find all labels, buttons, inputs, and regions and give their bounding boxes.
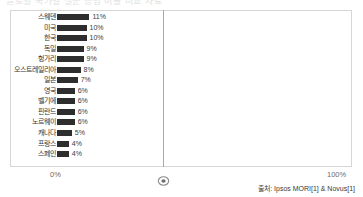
bar-row-label: 스페인 <box>38 149 56 160</box>
bar-track <box>57 67 352 73</box>
bar <box>57 67 81 73</box>
bar-value-label: 6% <box>78 86 88 97</box>
bar <box>57 14 89 20</box>
axis-tick-0: 0% <box>50 170 61 179</box>
bar-value-label: 9% <box>87 44 97 55</box>
bar-track <box>57 109 352 115</box>
bar-track <box>57 88 352 94</box>
bar <box>57 56 84 62</box>
bar-track <box>57 56 352 62</box>
bar-row-label: 오스트레일리아 <box>14 65 56 76</box>
bar-row-label: 노르웨이 <box>32 117 56 128</box>
bar-track <box>57 98 352 104</box>
bar-track <box>57 119 352 125</box>
chart-root: 글로벌 국가별 설문 응답 비율 비교 자료 스웨덴11%미국10%한국10%독… <box>0 0 363 197</box>
bar-row: 일본7% <box>10 75 352 86</box>
bar-row: 프랑스4% <box>10 139 352 150</box>
bar <box>57 25 87 31</box>
bar-value-label: 4% <box>72 149 82 160</box>
bar-track <box>57 130 352 136</box>
bar <box>57 151 69 157</box>
axis-tick-100: 100% <box>327 170 346 179</box>
bar-row-label: 헝가리 <box>38 54 56 65</box>
bar-track <box>57 77 352 83</box>
bar <box>57 77 78 83</box>
bar-track <box>57 46 352 52</box>
bar <box>57 109 75 115</box>
bar-row-label: 영국 <box>44 86 56 97</box>
bar-rows: 스웨덴11%미국10%한국10%독일9%헝가리9%오스트레일리아8%일본7%영국… <box>10 12 352 165</box>
bar <box>57 46 84 52</box>
bar-row-label: 스웨덴 <box>38 12 56 23</box>
bar-row: 한국10% <box>10 33 352 44</box>
bar-row-label: 일본 <box>44 75 56 86</box>
bar-value-label: 8% <box>84 65 94 76</box>
circle-marker-icon <box>157 172 170 182</box>
bar-value-label: 9% <box>87 54 97 65</box>
bar-row: 벨기에6% <box>10 96 352 107</box>
bar-value-label: 7% <box>81 75 91 86</box>
bar-track <box>57 141 352 147</box>
bar-value-label: 5% <box>75 128 85 139</box>
bar <box>57 141 69 147</box>
bar-value-label: 10% <box>90 33 104 44</box>
bar <box>57 98 75 104</box>
bar-row: 핀란드6% <box>10 107 352 118</box>
bar-row: 스웨덴11% <box>10 12 352 23</box>
bar <box>57 130 72 136</box>
bar-row-label: 캐나다 <box>38 128 56 139</box>
bar-value-label: 10% <box>90 23 104 34</box>
bar-value-label: 6% <box>78 117 88 128</box>
bar-row: 헝가리9% <box>10 54 352 65</box>
bar <box>57 88 75 94</box>
bar-value-label: 11% <box>92 12 106 23</box>
bar-row-label: 한국 <box>44 33 56 44</box>
bar-value-label: 4% <box>72 139 82 150</box>
bar-row: 스페인4% <box>10 149 352 160</box>
bar <box>57 119 75 125</box>
bar-track <box>57 151 352 157</box>
bar <box>57 35 87 41</box>
bar-row: 캐나다5% <box>10 128 352 139</box>
bar-row: 오스트레일리아8% <box>10 65 352 76</box>
bar-row-label: 핀란드 <box>38 107 56 118</box>
clipped-title-text: 글로벌 국가별 설문 응답 비율 비교 자료 <box>6 0 346 6</box>
bar-row: 노르웨이6% <box>10 117 352 128</box>
bar-row-label: 독일 <box>44 44 56 55</box>
bar-row: 미국10% <box>10 23 352 34</box>
bar-value-label: 6% <box>78 107 88 118</box>
source-attribution: 출처: Ipsos MORI[1] & Novus[1] <box>258 183 355 193</box>
bar-row-label: 벨기에 <box>38 96 56 107</box>
bar-row-label: 미국 <box>44 23 56 34</box>
bar-row: 독일9% <box>10 44 352 55</box>
bar-row-label: 프랑스 <box>38 139 56 150</box>
bar-row: 영국6% <box>10 86 352 97</box>
bar-value-label: 6% <box>78 96 88 107</box>
